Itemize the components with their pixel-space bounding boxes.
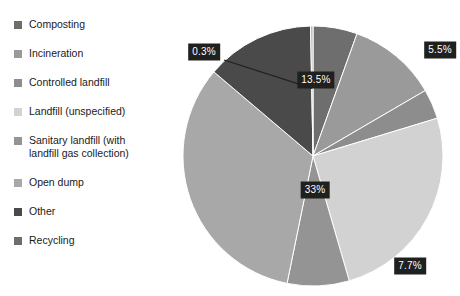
legend-swatch-icon: [14, 79, 22, 87]
legend-item-label: Sanitary landfill (with landfill gas col…: [29, 134, 129, 160]
legend-item[interactable]: Composting: [14, 18, 176, 31]
legend-item-label: Landfill (unspecified): [29, 105, 125, 118]
legend-item[interactable]: Recycling: [14, 234, 176, 247]
legend-item[interactable]: Other: [14, 205, 176, 218]
legend-item[interactable]: Open dump: [14, 176, 176, 189]
legend-swatch-icon: [14, 208, 22, 216]
slice-value-label: 5.5%: [424, 42, 456, 59]
pie-chart-plot-area: 5.5%11.1%3.7%25.2%7.7%33%13.5%0.3%: [180, 10, 460, 296]
legend-swatch-icon: [14, 237, 22, 245]
legend-swatch-icon: [14, 179, 22, 187]
pie-chart-figure: CompostingIncinerationControlled landfil…: [0, 0, 460, 296]
legend-swatch-icon: [14, 137, 22, 145]
legend-item[interactable]: Landfill (unspecified): [14, 105, 176, 118]
legend-swatch-icon: [14, 50, 22, 58]
legend-item[interactable]: Sanitary landfill (with landfill gas col…: [14, 134, 176, 160]
slice-value-label: 7.7%: [394, 258, 426, 275]
legend-item-label: Open dump: [29, 176, 84, 189]
slice-value-label: 13.5%: [297, 72, 334, 89]
legend-item-label: Other: [29, 205, 55, 218]
slice-value-label: 0.3%: [188, 44, 220, 61]
legend-swatch-icon: [14, 108, 22, 116]
legend-item-label: Composting: [29, 18, 85, 31]
chart-legend: CompostingIncinerationControlled landfil…: [14, 18, 176, 263]
legend-item[interactable]: Controlled landfill: [14, 76, 176, 89]
legend-item-label: Controlled landfill: [29, 76, 110, 89]
legend-item-label: Incineration: [29, 47, 83, 60]
legend-item-label: Recycling: [29, 234, 75, 247]
legend-item[interactable]: Incineration: [14, 47, 176, 60]
pie-slices-svg: [180, 10, 460, 296]
slice-value-label: 33%: [301, 182, 330, 199]
legend-swatch-icon: [14, 21, 22, 29]
